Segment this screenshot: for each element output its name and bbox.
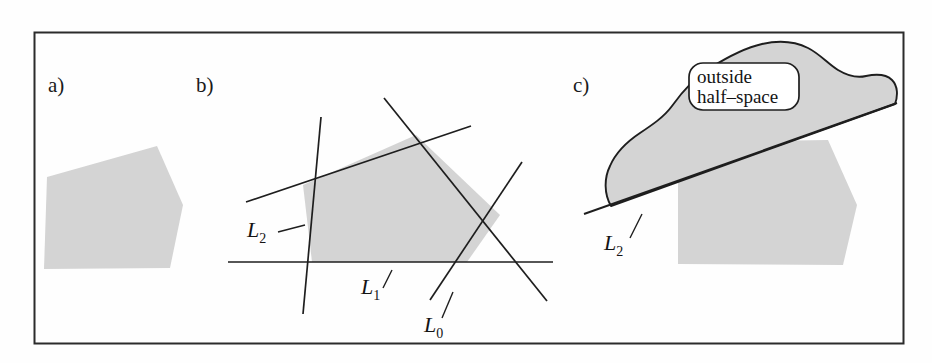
panel-c-label-l2-sub: 2 (616, 244, 623, 259)
figure-svg: a) b) L2 L1 (0, 0, 932, 363)
panel-c-label: c) (573, 73, 589, 97)
panel-c-callout-line-2: half–space (697, 86, 778, 107)
figure-root: a) b) L2 L1 (0, 0, 932, 363)
panel-b-label-l2-text: L (246, 217, 259, 242)
panel-c-label-l2-text: L (603, 230, 616, 255)
panel-b-label-l0-text: L (423, 312, 436, 337)
panel-a-label: a) (48, 73, 64, 97)
panel-b-label-l1-text: L (360, 274, 373, 299)
panel-c-callout: outside half–space (689, 63, 799, 110)
panel-b-label-l2-sub: 2 (259, 231, 266, 246)
panel-c-callout-line-1: outside (697, 66, 752, 87)
panel-b-label-l1-sub: 1 (373, 288, 380, 303)
panel-b-label: b) (196, 73, 214, 97)
panel-b-label-l0-sub: 0 (436, 326, 443, 341)
